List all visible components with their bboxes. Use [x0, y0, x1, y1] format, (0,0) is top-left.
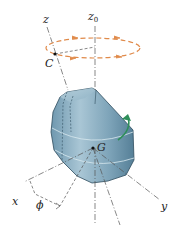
z0-axis-label: z0	[88, 11, 98, 24]
rigid-body-precession-diagram: z z0 C G x y ϕ	[0, 0, 178, 248]
x-axis-label: x	[12, 196, 18, 207]
point-g-dot	[91, 146, 94, 149]
z0-label-subscript: 0	[94, 16, 98, 24]
precession-arrowhead-icon	[72, 36, 78, 39]
precession-arrowhead-icon	[116, 55, 122, 58]
point-g-label: G	[97, 142, 106, 153]
point-c-label: C	[45, 58, 53, 69]
precession-arrowhead-icon	[70, 57, 76, 60]
precession-arrowhead-icon	[114, 36, 120, 39]
z-axis-label: z	[43, 14, 49, 25]
y-axis-label: y	[161, 201, 167, 212]
radius-line	[55, 47, 95, 54]
diagram-canvas	[0, 0, 178, 248]
point-c-dot	[53, 52, 56, 55]
phi-angle-label: ϕ	[36, 200, 44, 211]
precession-path	[46, 36, 140, 60]
rigid-body	[51, 88, 134, 183]
